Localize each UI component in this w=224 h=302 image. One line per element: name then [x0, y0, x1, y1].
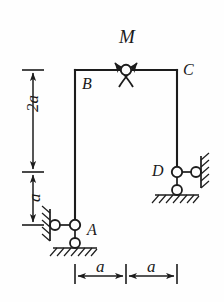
support-a-roller-bottom [70, 238, 80, 248]
label-moment-M: M [119, 27, 135, 46]
support-a-roller-left [50, 220, 60, 230]
moment-load-M [115, 63, 137, 87]
support-a-pin [70, 220, 80, 230]
label-dim-2a: 2a [24, 95, 41, 112]
support-a-ground-hatching [50, 248, 97, 256]
label-joint-B: B [82, 76, 92, 92]
support-d-roller-right [191, 167, 201, 177]
support-d-roller-bottom [172, 185, 182, 195]
label-joint-C: C [183, 62, 194, 78]
structural-frame-figure: M B C D A 2a a a a [0, 0, 224, 302]
support-d-pin [172, 167, 182, 177]
label-dim-a-vertical: a [26, 194, 43, 203]
support-d-wall-hatching [201, 153, 209, 188]
label-dim-a-left: a [96, 258, 105, 275]
label-joint-A: A [87, 222, 97, 238]
frame-drawing-canvas [0, 0, 224, 302]
label-joint-D: D [152, 163, 164, 179]
horizontal-dimension-chain [75, 264, 177, 284]
internal-hinge [121, 65, 131, 75]
label-dim-a-right: a [147, 258, 156, 275]
frame-members [75, 70, 177, 225]
support-d-ground-hatching [152, 195, 199, 203]
support-a-wall-hatching [42, 206, 50, 241]
